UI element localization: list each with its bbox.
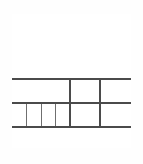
divider-vrule-b [99, 78, 101, 126]
row3-segmented-strip [12, 103, 70, 127]
segment-2[interactable] [26, 103, 41, 127]
row2-cell-1[interactable] [12, 79, 70, 103]
hero-panel[interactable] [12, 14, 131, 79]
segment-1[interactable] [12, 103, 26, 127]
row2-cell-3[interactable] [100, 79, 131, 103]
row3-cell-2[interactable] [100, 103, 131, 127]
segment-3[interactable] [41, 103, 56, 127]
divider-rule-1 [12, 78, 131, 80]
wireframe-canvas [0, 0, 143, 164]
segment-4[interactable] [55, 103, 70, 127]
row3-cell-1[interactable] [70, 103, 100, 127]
footer-panel[interactable] [12, 127, 131, 148]
divider-rule-2 [12, 102, 131, 104]
divider-rule-3 [12, 126, 131, 128]
divider-vrule-a [69, 78, 71, 126]
row2-cell-2[interactable] [70, 79, 100, 103]
